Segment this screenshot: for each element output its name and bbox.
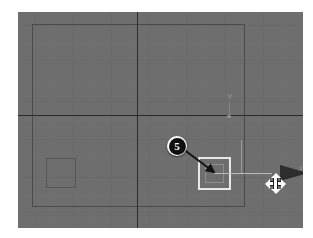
world-axis-horizontal-line	[18, 115, 303, 116]
screenshot-root: Y X	[0, 0, 313, 238]
move-cursor-arrow-right	[281, 179, 286, 189]
callout-bullet-disc: 5	[169, 138, 186, 155]
viewport-perspective[interactable]: Y X	[18, 12, 303, 228]
gizmo-axis-y-handle[interactable]	[241, 140, 242, 174]
callout-bullet-5: 5	[167, 136, 187, 156]
move-gizmo[interactable]: X	[214, 134, 303, 190]
move-cursor-icon	[266, 174, 285, 193]
callout-bullet-number: 5	[174, 141, 180, 152]
axis-label-y: Y	[224, 92, 236, 102]
gizmo-axis-x-label: X	[298, 164, 303, 173]
object-box-unselected[interactable]	[46, 158, 76, 188]
move-cursor-arrow-left	[265, 179, 270, 189]
origin-dot	[227, 115, 231, 118]
move-cursor-arrow-down	[271, 189, 281, 194]
callout-leader-arrow-icon	[182, 148, 224, 180]
move-cursor-arrow-up	[271, 173, 281, 178]
world-origin-marker: Y	[224, 96, 236, 118]
world-axis-vertical-line	[137, 12, 138, 228]
